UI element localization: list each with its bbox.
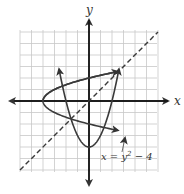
equation-annotation: x = y2 − 4 [101, 150, 153, 162]
x-axis-label: x [174, 94, 181, 108]
graph-canvas: y x x = y2 − 4 [0, 0, 184, 194]
y-axis-label: y [85, 3, 93, 17]
